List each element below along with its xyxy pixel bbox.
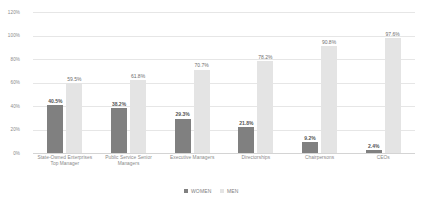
bar-value-label: 40.5% — [48, 98, 62, 104]
bar-chart: 120%100%80%60%40%20%0% 40.5%59.5%38.2%61… — [0, 0, 423, 209]
legend-item-men[interactable]: MEN — [220, 188, 238, 194]
y-axis-tick-label: 20% — [0, 127, 20, 132]
bar-group: 9.2%90.8% — [288, 12, 352, 153]
category-label: State-Owned Enterprises Top Manager — [33, 155, 97, 185]
plot-area: 120%100%80%60%40%20%0% 40.5%59.5%38.2%61… — [33, 12, 415, 153]
bars-layer: 40.5%59.5%38.2%61.8%29.3%70.7%21.8%78.2%… — [33, 12, 415, 153]
bar-men[interactable]: 97.6% — [385, 38, 401, 153]
bar-group: 38.2%61.8% — [97, 12, 161, 153]
bar-value-label: 59.5% — [67, 76, 81, 82]
category-label: CEOs — [351, 155, 415, 185]
bar-group: 21.8%78.2% — [224, 12, 288, 153]
bar-value-label: 9.2% — [304, 135, 315, 141]
category-label: Public Service Senior Managers — [97, 155, 161, 185]
category-axis: State-Owned Enterprises Top ManagerPubli… — [33, 155, 415, 185]
bar-value-label: 70.7% — [195, 62, 209, 68]
bar-men[interactable]: 59.5% — [66, 83, 82, 153]
y-axis-tick-label: 60% — [0, 80, 20, 85]
bar-women[interactable]: 40.5% — [47, 105, 63, 153]
bar-value-label: 21.8% — [239, 120, 253, 126]
bar-group: 2.4%97.6% — [351, 12, 415, 153]
bar-women[interactable]: 2.4% — [366, 150, 382, 153]
bar-value-label: 29.3% — [176, 111, 190, 117]
legend-swatch-icon — [220, 189, 224, 193]
y-axis-tick-label: 120% — [0, 10, 20, 15]
bar-group: 40.5%59.5% — [33, 12, 97, 153]
legend-label: WOMEN — [191, 188, 211, 194]
bar-women[interactable]: 29.3% — [175, 119, 191, 153]
bar-value-label: 2.4% — [368, 143, 379, 149]
category-label: Executive Managers — [160, 155, 224, 185]
bar-men[interactable]: 61.8% — [130, 80, 146, 153]
legend-swatch-icon — [184, 189, 188, 193]
bar-value-label: 61.8% — [131, 73, 145, 79]
category-label: Chairpersons — [288, 155, 352, 185]
bar-men[interactable]: 70.7% — [194, 70, 210, 153]
category-label: Directorships — [224, 155, 288, 185]
bar-value-label: 38.2% — [112, 101, 126, 107]
y-axis-tick-label: 80% — [0, 57, 20, 62]
bar-men[interactable]: 90.8% — [321, 46, 337, 153]
legend-label: MEN — [227, 188, 239, 194]
bar-value-label: 78.2% — [258, 54, 272, 60]
bar-group: 29.3%70.7% — [160, 12, 224, 153]
y-axis-tick-label: 100% — [0, 33, 20, 38]
bar-women[interactable]: 9.2% — [302, 142, 318, 153]
bar-value-label: 97.6% — [386, 31, 400, 37]
bar-men[interactable]: 78.2% — [257, 61, 273, 153]
chart-legend: WOMENMEN — [0, 188, 423, 194]
y-axis-tick-label: 0% — [0, 151, 20, 156]
legend-item-women[interactable]: WOMEN — [184, 188, 211, 194]
y-axis-tick-label: 40% — [0, 104, 20, 109]
gridline — [33, 153, 415, 154]
bar-women[interactable]: 38.2% — [111, 108, 127, 153]
bar-value-label: 90.8% — [322, 39, 336, 45]
bar-women[interactable]: 21.8% — [238, 127, 254, 153]
